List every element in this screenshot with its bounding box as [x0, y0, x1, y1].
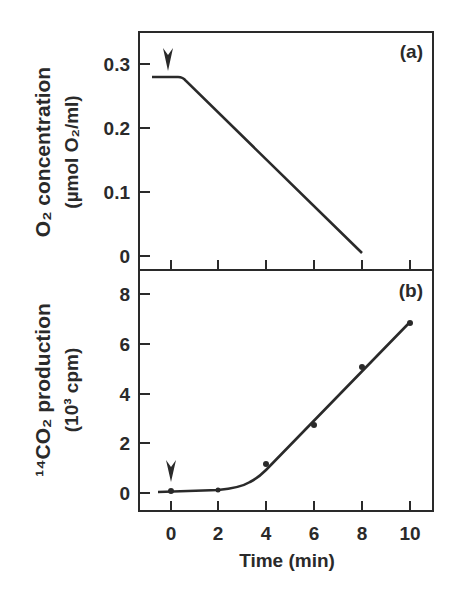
panel-b-y-axis-title: ¹⁴CO₂ production: [31, 303, 54, 477]
tick-label: 0: [119, 246, 130, 267]
panel-b-y-ticks: [139, 294, 150, 493]
tick-label: 6: [309, 523, 320, 544]
x-axis-title: Time (min): [239, 550, 335, 571]
tick-label: 10: [399, 523, 420, 544]
tick-label: 4: [261, 523, 272, 544]
tick-label: 6: [119, 334, 130, 355]
panel-a-arrow-icon: [163, 48, 173, 71]
data-point: [263, 461, 269, 467]
data-point: [168, 488, 174, 494]
panel-b-y-tick-labels: 8 6 4 2 0: [119, 284, 130, 504]
panel-b-fit-line: [158, 322, 410, 492]
tick-label: 2: [213, 523, 224, 544]
data-point: [311, 422, 317, 428]
tick-label: 0: [166, 523, 177, 544]
panel-a-y-ticks: [139, 64, 150, 256]
data-point: [407, 320, 413, 326]
tick-label: 8: [119, 284, 130, 305]
tick-label: 0.2: [104, 118, 130, 139]
x-tick-labels: 0 2 4 6 8 10: [166, 523, 421, 544]
panel-b-x-ticks: [171, 501, 410, 511]
panel-a-y-tick-labels: 0.3 0.2 0.1 0: [104, 54, 131, 267]
panel-b-points: [168, 320, 413, 494]
data-point: [216, 488, 221, 493]
panel-a-o2-line: [152, 77, 362, 253]
panel-b-y-axis-unit: (10³ cpm): [61, 348, 82, 432]
panel-a-frame: [139, 32, 433, 270]
tick-label: 8: [357, 523, 368, 544]
panel-b-frame: [139, 270, 433, 511]
tick-label: 0.3: [104, 54, 130, 75]
tick-label: 0: [119, 483, 130, 504]
panel-b-arrow-icon: [166, 460, 176, 482]
panel-a-x-ticks: [171, 260, 410, 270]
tick-label: 0.1: [104, 182, 131, 203]
panel-a-y-axis-unit: (µmol O₂/ml): [61, 95, 82, 208]
tick-label: 4: [119, 384, 130, 405]
data-point: [359, 364, 365, 370]
panel-a-label: (a): [400, 41, 423, 62]
figure: (a) (b) 0.3 0.2 0.1 0 8 6 4 2 0 0 2 4 6 …: [0, 0, 459, 607]
tick-label: 2: [119, 433, 130, 454]
panel-a-y-axis-title: O₂ concentration: [31, 67, 54, 237]
panel-b-label: (b): [399, 280, 423, 301]
